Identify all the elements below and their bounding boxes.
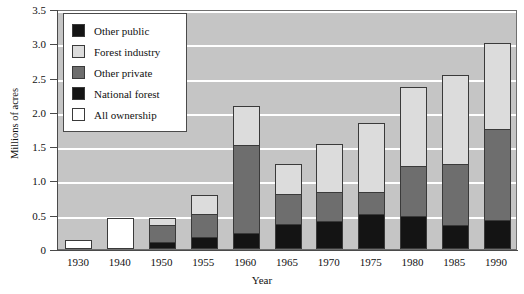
x-axis-tick-label: 1980 (388, 256, 436, 268)
y-axis-tick-label: 0 (0, 245, 46, 256)
y-axis-tick-label: 2.5 (0, 74, 46, 85)
bar-group[interactable] (65, 240, 92, 249)
bar-segment-forest-industry[interactable] (442, 75, 469, 164)
x-axis-tick-label: 1970 (305, 256, 353, 268)
bar-segment-forest-industry[interactable] (191, 195, 218, 214)
bar-segment-forest-industry[interactable] (275, 164, 302, 194)
x-axis-tick-label: 1985 (430, 256, 478, 268)
y-axis-tick (50, 44, 57, 45)
swatch-light-gray-icon (72, 45, 85, 58)
bar-group[interactable] (233, 106, 260, 249)
y-axis-tick-label: 1.0 (0, 176, 46, 187)
bar-segment-other-private[interactable] (442, 164, 469, 225)
x-axis-tick-label: 1950 (138, 256, 186, 268)
x-axis-title: Year (0, 274, 524, 286)
bar-segment-forest-industry[interactable] (358, 123, 385, 192)
y-axis-tick (50, 113, 57, 114)
x-axis-tick-label: 1975 (347, 256, 395, 268)
x-axis-line (57, 250, 518, 251)
bar-segment-other-private[interactable] (484, 129, 511, 220)
y-axis-tick (50, 147, 57, 148)
chart-legend: Other publicForest industryOther private… (63, 13, 187, 132)
bar-segment-national-forest[interactable] (358, 214, 385, 249)
bar-segment-forest-industry[interactable] (233, 106, 260, 144)
bar-segment-national-forest[interactable] (400, 216, 427, 249)
y-axis-tick-label: 2.0 (0, 108, 46, 119)
y-axis-title: Millions of acres (9, 64, 20, 184)
x-axis-tick-label: 1930 (54, 256, 102, 268)
x-axis-tick-label: 1965 (263, 256, 311, 268)
swatch-black-icon (72, 87, 85, 100)
legend-item-label: National forest (94, 88, 160, 100)
bar-segment-forest-industry[interactable] (149, 218, 176, 225)
bar-group[interactable] (107, 218, 134, 249)
bar-group[interactable] (149, 218, 176, 249)
legend-item-label: Other private (94, 67, 152, 79)
legend-item[interactable]: Other private (72, 62, 179, 83)
bar-segment-national-forest[interactable] (191, 237, 218, 249)
y-axis-tick (50, 181, 57, 182)
bar-group[interactable] (316, 144, 343, 249)
bar-segment-forest-industry[interactable] (484, 43, 511, 129)
bar-segment-other-private[interactable] (275, 194, 302, 224)
bar-segment-other-private[interactable] (233, 145, 260, 233)
bar-segment-other-private[interactable] (191, 214, 218, 237)
y-axis-tick (50, 250, 57, 251)
swatch-mid-gray-icon (72, 66, 85, 79)
bar-segment-forest-industry[interactable] (400, 87, 427, 167)
bar-segment-national-forest[interactable] (233, 233, 260, 249)
bar-segment-other-private[interactable] (149, 225, 176, 242)
legend-item[interactable]: Other public (72, 20, 179, 41)
legend-item[interactable]: All ownership (72, 104, 179, 125)
stacked-bar-chart: 00.51.01.52.02.53.03.5 19301940195019551… (0, 0, 524, 294)
x-axis-tick-label: 1990 (472, 256, 520, 268)
legend-item-label: All ownership (94, 109, 157, 121)
bar-group[interactable] (484, 43, 511, 249)
y-axis-tick-label: 3.5 (0, 5, 46, 16)
bar-group[interactable] (358, 123, 385, 249)
bar-segment-other-private[interactable] (316, 192, 343, 221)
y-axis-tick-label: 1.5 (0, 142, 46, 153)
legend-item[interactable]: National forest (72, 83, 179, 104)
legend-item-label: Other public (94, 25, 149, 37)
bar-segment-other-private[interactable] (400, 166, 427, 216)
bar-group[interactable] (275, 164, 302, 249)
bar-segment-national-forest[interactable] (442, 225, 469, 249)
bar-segment-all-ownership[interactable] (65, 240, 92, 249)
bar-segment-national-forest[interactable] (275, 224, 302, 249)
y-axis-tick (50, 10, 57, 11)
x-axis-tick-label: 1955 (179, 256, 227, 268)
legend-item-label: Forest industry (94, 46, 160, 58)
y-axis-tick (50, 216, 57, 217)
y-axis-line (57, 10, 58, 251)
y-axis-tick (50, 79, 57, 80)
bar-group[interactable] (191, 195, 218, 249)
bar-segment-all-ownership[interactable] (107, 218, 134, 249)
bar-segment-national-forest[interactable] (484, 220, 511, 249)
bar-segment-forest-industry[interactable] (316, 144, 343, 192)
y-axis-tick-label: 0.5 (0, 211, 46, 222)
y-axis-tick-labels: 00.51.01.52.02.53.03.5 (0, 0, 46, 294)
y-axis-tick-label: 3.0 (0, 39, 46, 50)
bar-segment-other-private[interactable] (358, 192, 385, 214)
swatch-black-icon (72, 24, 85, 37)
swatch-white-icon (72, 108, 85, 121)
x-axis-tick-label: 1940 (96, 256, 144, 268)
bar-group[interactable] (400, 87, 427, 249)
bar-segment-national-forest[interactable] (316, 221, 343, 249)
bar-group[interactable] (442, 75, 469, 249)
x-axis-tick-label: 1960 (221, 256, 269, 268)
bar-segment-national-forest[interactable] (149, 242, 176, 249)
legend-item[interactable]: Forest industry (72, 41, 179, 62)
